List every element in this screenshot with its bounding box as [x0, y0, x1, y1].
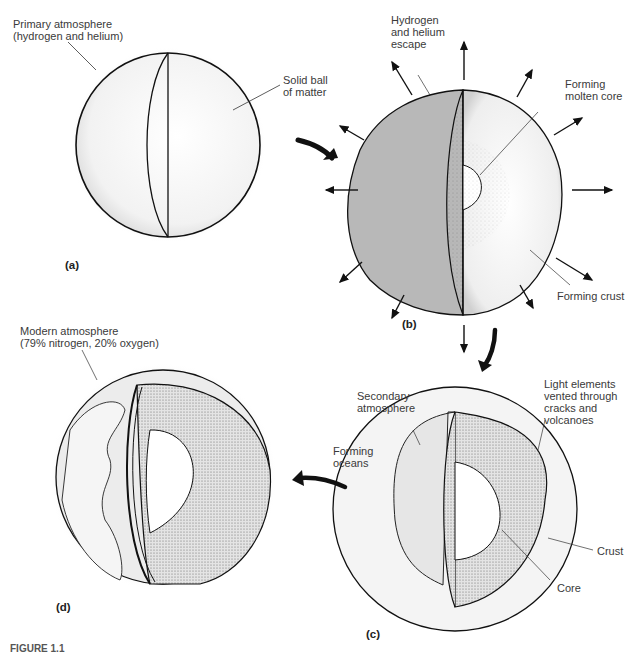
figure-caption: FIGURE 1.1	[10, 643, 64, 653]
label-secondary-atmosphere: Secondary atmosphere	[357, 390, 415, 414]
label-crust: Crust	[597, 545, 623, 557]
label-core: Core	[557, 582, 581, 594]
label-hydrogen-escape: Hydrogen and helium escape	[391, 14, 445, 50]
label-primary-atmosphere: Primary atmosphere (hydrogen and helium)	[13, 18, 123, 42]
label-forming-molten-core: Forming molten core	[565, 78, 622, 102]
panel-label-a: (a)	[65, 259, 79, 271]
panel-label-b: (b)	[402, 318, 417, 330]
panel-a-sphere	[68, 42, 280, 243]
arrow-a-to-b-icon	[298, 140, 332, 158]
panel-label-d: (d)	[56, 601, 71, 613]
panel-b-sphere	[348, 75, 570, 315]
label-solid-ball: Solid ball of matter	[283, 74, 328, 98]
label-forming-crust: Forming crust	[557, 290, 624, 302]
arrow-b-to-c-icon	[485, 330, 495, 365]
label-forming-oceans: Forming oceans	[333, 445, 373, 469]
panel-label-c: (c)	[366, 628, 380, 640]
label-modern-atmosphere: Modern atmosphere (79% nitrogen, 20% oxy…	[20, 325, 159, 349]
label-light-elements: Light elements vented through cracks and…	[544, 378, 617, 426]
panel-d-sphere	[49, 350, 277, 591]
